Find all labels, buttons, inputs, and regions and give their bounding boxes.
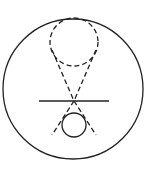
dashed-tangent-lines [52,50,96,135]
outer-circle [3,19,143,159]
dashed-line-left-upper [52,50,74,101]
upper-dashed-circle [50,18,98,66]
geometry-diagram [0,0,151,181]
lower-circle [62,113,86,137]
dashed-line-right-upper [74,50,96,101]
